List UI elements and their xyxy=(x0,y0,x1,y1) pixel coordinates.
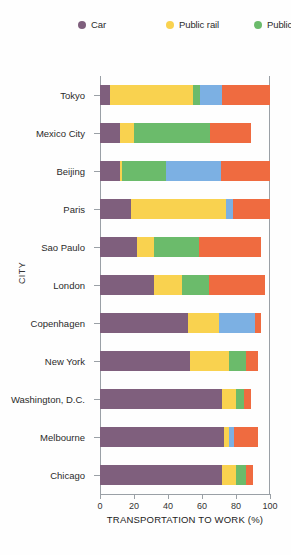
legend-item-public-bus[interactable]: Public bus xyxy=(254,16,291,33)
y-axis-tick-label: Tokyo xyxy=(0,90,91,101)
x-axis-tick-label: 40 xyxy=(163,501,173,511)
bar-segment-public-rail xyxy=(120,123,134,143)
bar-segment-foot xyxy=(221,161,270,181)
x-axis-label: TRANSPORTATION TO WORK (%) xyxy=(100,514,270,525)
bar-segment-public-bus xyxy=(134,123,211,143)
legend-swatch-icon xyxy=(166,21,174,29)
x-axis-tick-label: 100 xyxy=(262,501,277,511)
transportation-to-work-chart: CarPublic railPublic busBicycleFoot TRAN… xyxy=(0,0,291,555)
bar-segment-public-bus xyxy=(229,351,246,371)
bar-segment-public-rail xyxy=(137,237,154,257)
legend-label: Public bus xyxy=(267,16,291,33)
bar-segment-public-rail xyxy=(190,351,229,371)
x-axis-tick-label: 80 xyxy=(231,501,241,511)
bar-segment-bicycle xyxy=(166,161,220,181)
x-axis-tick xyxy=(168,494,169,499)
legend-item-public-rail[interactable]: Public rail xyxy=(166,16,254,33)
bar-row xyxy=(100,351,270,371)
bar-segment-public-bus xyxy=(154,237,198,257)
bar-segment-public-rail xyxy=(110,85,193,105)
bar-row xyxy=(100,199,270,219)
bar-segment-car xyxy=(100,313,188,333)
bar-segment-foot xyxy=(234,427,258,447)
bar-segment-public-rail xyxy=(154,275,181,295)
bar-segment-public-rail xyxy=(222,465,236,485)
bar-segment-car xyxy=(100,351,190,371)
x-axis-tick-label: 20 xyxy=(129,501,139,511)
bar-segment-car xyxy=(100,161,120,181)
legend-swatch-icon xyxy=(78,21,86,29)
x-axis-tick xyxy=(100,494,101,499)
bar-row xyxy=(100,161,270,181)
y-axis-tick xyxy=(94,95,100,96)
y-axis-tick-label: New York xyxy=(0,356,91,367)
bar-row xyxy=(100,123,270,143)
bar-segment-foot xyxy=(233,199,270,219)
x-axis-line xyxy=(100,494,270,495)
x-axis-tick-label: 60 xyxy=(197,501,207,511)
legend-item-car[interactable]: Car xyxy=(78,16,166,33)
legend-label: Car xyxy=(91,16,106,33)
bar-segment-foot xyxy=(246,351,258,371)
y-axis-tick xyxy=(94,247,100,248)
bar-row xyxy=(100,465,270,485)
bar-segment-car xyxy=(100,389,222,409)
bar-segment-foot xyxy=(255,313,262,333)
bar-segment-public-rail xyxy=(131,199,226,219)
bar-segment-public-bus xyxy=(193,85,200,105)
bar-segment-car xyxy=(100,199,131,219)
x-axis-tick xyxy=(236,494,237,499)
bar-row xyxy=(100,427,270,447)
y-axis-tick xyxy=(94,285,100,286)
chart-legend: CarPublic railPublic busBicycleFoot xyxy=(78,16,268,68)
y-axis-tick xyxy=(94,323,100,324)
y-axis-tick xyxy=(94,475,100,476)
bar-segment-public-bus xyxy=(182,275,209,295)
bar-segment-public-bus xyxy=(236,465,246,485)
bar-segment-foot xyxy=(244,389,251,409)
y-axis-tick xyxy=(94,437,100,438)
bar-segment-car xyxy=(100,123,120,143)
bar-segment-foot xyxy=(222,85,270,105)
y-axis-tick-label: London xyxy=(0,280,91,291)
y-axis-tick-label: Washington, D.C. xyxy=(0,394,91,405)
plot-area xyxy=(100,76,270,494)
y-axis-tick xyxy=(94,399,100,400)
bar-segment-public-bus xyxy=(122,161,166,181)
x-axis-tick xyxy=(270,494,271,499)
bar-segment-foot xyxy=(209,275,265,295)
bar-segment-public-rail xyxy=(222,389,236,409)
y-axis-tick xyxy=(94,133,100,134)
bar-segment-foot xyxy=(199,237,262,257)
bar-segment-bicycle xyxy=(219,313,255,333)
bar-row xyxy=(100,275,270,295)
bar-segment-bicycle xyxy=(226,199,233,219)
y-axis-tick-label: Mexico City xyxy=(0,128,91,139)
bar-row xyxy=(100,85,270,105)
y-axis-tick-label: Melbourne xyxy=(0,432,91,443)
bar-segment-public-bus xyxy=(236,389,245,409)
bar-segment-foot xyxy=(210,123,251,143)
x-axis-tick xyxy=(202,494,203,499)
x-axis-tick-label: 0 xyxy=(97,501,102,511)
bar-segment-public-rail xyxy=(188,313,219,333)
y-axis-tick-label: Paris xyxy=(0,204,91,215)
bar-segment-foot xyxy=(246,465,253,485)
bar-segment-car xyxy=(100,275,154,295)
bar-segment-car xyxy=(100,85,110,105)
bar-row xyxy=(100,313,270,333)
x-axis-tick xyxy=(134,494,135,499)
bar-row xyxy=(100,389,270,409)
bar-segment-bicycle xyxy=(200,85,222,105)
y-axis-tick-label: Chicago xyxy=(0,470,91,481)
y-axis-tick-label: Copenhagen xyxy=(0,318,91,329)
legend-label: Public rail xyxy=(179,16,219,33)
bar-segment-car xyxy=(100,237,137,257)
y-axis-tick xyxy=(94,361,100,362)
y-axis-tick xyxy=(94,209,100,210)
y-axis-tick-label: Sao Paulo xyxy=(0,242,91,253)
y-axis-tick xyxy=(94,171,100,172)
legend-swatch-icon xyxy=(254,21,262,29)
bar-row xyxy=(100,237,270,257)
bar-segment-car xyxy=(100,465,222,485)
